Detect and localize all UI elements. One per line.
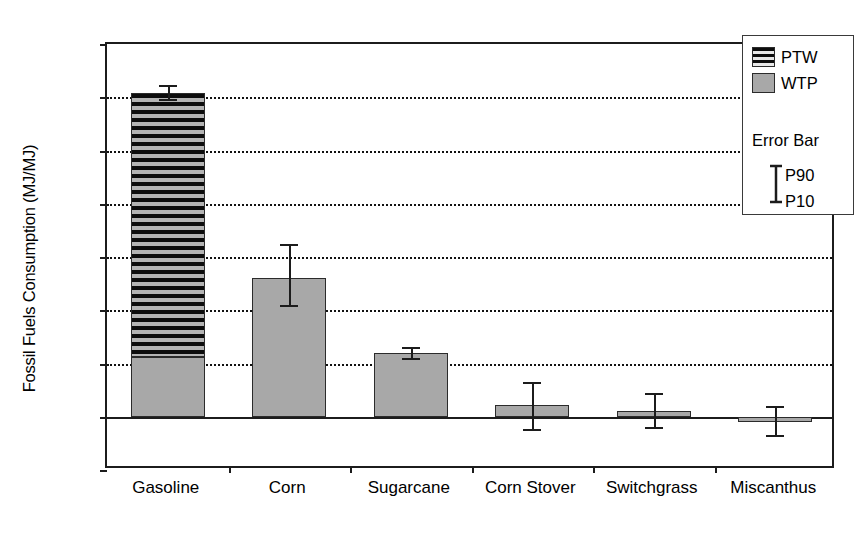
error-bar-cap-p90 [280,244,298,246]
legend-entry-ptw: PTW [752,47,818,67]
y-tick-mark [100,204,107,206]
x-tick-mark [715,466,717,473]
gridline [107,364,832,366]
y-tick-mark [100,97,107,99]
error-bar-cap-p90 [523,382,541,384]
plot-area [105,42,834,468]
error-bar-cap-p90 [766,406,784,408]
zero-baseline [107,417,832,419]
x-category-label-corn-stover: Corn Stover [485,478,576,498]
error-bar-cap-p10 [645,427,663,429]
x-category-label-sugarcane: Sugarcane [368,478,450,498]
y-tick-mark [100,44,107,46]
legend-label-p10: P10 [785,193,814,210]
gridline [107,310,832,312]
error-bar-cap-p90 [645,393,663,395]
error-bar-cap-p90 [402,347,420,349]
error-bar-line [775,406,777,435]
x-category-label-corn: Corn [269,478,306,498]
error-bar-cap-p10 [523,429,541,431]
bar-segment-ptw [131,93,205,357]
fossil-fuels-consumption-chart: Fossil Fuels Consumption (MJ/MJ) 1.41.21… [0,0,866,537]
x-tick-mark [593,466,595,473]
error-bar-line [532,382,534,429]
gridline [107,151,832,153]
legend-swatch-wtp-icon [752,73,775,93]
legend-error-bar-icon [769,164,783,204]
error-bar-line [654,393,656,428]
x-category-label-gasoline: Gasoline [132,478,199,498]
y-tick-mark [100,310,107,312]
x-tick-mark [472,466,474,473]
y-tick-mark [100,151,107,153]
legend-label-ptw: PTW [781,49,818,66]
y-tick-mark [100,257,107,259]
chart-legend: PTW WTP Error Bar P90 P10 [742,35,854,215]
error-bar-cap-p10 [766,435,784,437]
error-bar-cap-p10 [280,305,298,307]
legend-swatch-ptw-icon [752,47,775,67]
x-tick-mark [229,466,231,473]
gridline [107,204,832,206]
x-category-label-miscanthus: Miscanthus [730,478,816,498]
legend-label-wtp: WTP [781,75,818,92]
error-bar-line [289,244,291,305]
bar-segment-wtp [131,357,205,417]
x-tick-mark [350,466,352,473]
x-category-label-switchgrass: Switchgrass [606,478,698,498]
y-axis-title: Fossil Fuels Consumption (MJ/MJ) [14,0,44,537]
error-bar-cap-p10 [159,99,177,101]
y-tick-mark [100,364,107,366]
error-bar-cap-p90 [159,85,177,87]
gridline [107,257,832,259]
error-bar-cap-p10 [402,358,420,360]
legend-label-p90: P90 [785,167,814,184]
gridline [107,97,832,99]
legend-entry-wtp: WTP [752,73,818,93]
legend-error-bar-title: Error Bar [752,131,819,150]
bar-segment-wtp [374,353,448,417]
y-tick-mark [100,470,107,472]
y-tick-mark [100,417,107,419]
